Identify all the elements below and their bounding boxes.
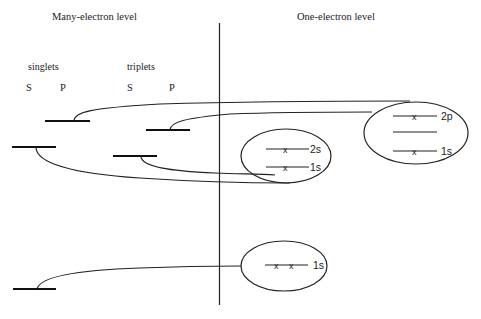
connector-singlet-s [36, 147, 290, 183]
electron-marker-icon: x [283, 145, 288, 155]
config-ellipse [241, 129, 331, 183]
connector-ground [37, 266, 241, 289]
triplet-s-column-label: S [127, 82, 133, 93]
config-excited-p: x 2p x 1s [364, 102, 468, 164]
electron-marker-icon: x [274, 261, 279, 271]
connector-singlet-p [74, 101, 410, 121]
singlet-p-column-label: P [60, 82, 66, 93]
orbital-label-2p: 2p [441, 110, 453, 122]
config-ground: x x 1s [241, 241, 327, 291]
config-excited-s: x 2s x 1s [241, 129, 331, 183]
one-electron-title: One-electron level [297, 11, 375, 22]
connector-triplet-s [141, 156, 275, 175]
electron-marker-icon: x [412, 147, 417, 157]
triplets-label: triplets [127, 61, 155, 72]
electron-marker-icon: x [412, 112, 417, 122]
orbital-label-1s: 1s [310, 161, 321, 173]
many-electron-title: Many-electron level [52, 11, 137, 22]
orbital-label-2s: 2s [310, 143, 321, 155]
singlets-label: singlets [28, 61, 59, 72]
energy-level-diagram: Many-electron level One-electron level s… [0, 0, 481, 319]
orbital-label-1s: 1s [441, 145, 452, 157]
electron-marker-icon: x [283, 163, 288, 173]
triplet-p-column-label: P [169, 82, 175, 93]
singlet-s-column-label: S [26, 82, 32, 93]
connector-triplet-p [170, 112, 372, 130]
orbital-label-1s: 1s [313, 259, 324, 271]
electron-marker-icon: x [289, 261, 294, 271]
